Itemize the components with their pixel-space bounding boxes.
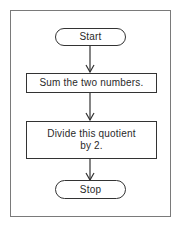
process-divide-label-line2: by 2. — [80, 140, 103, 152]
stop-label: Stop — [80, 184, 101, 196]
process-sum-numbers: Sum the two numbers. — [26, 73, 157, 93]
start-terminator: Start — [55, 28, 126, 46]
process-divide-quotient: Divide this quotient by 2. — [26, 121, 157, 159]
process-sum-label: Sum the two numbers. — [39, 77, 143, 89]
stop-terminator: Stop — [55, 180, 126, 199]
start-label: Start — [79, 31, 101, 43]
process-divide-label-line1: Divide this quotient — [47, 128, 136, 140]
